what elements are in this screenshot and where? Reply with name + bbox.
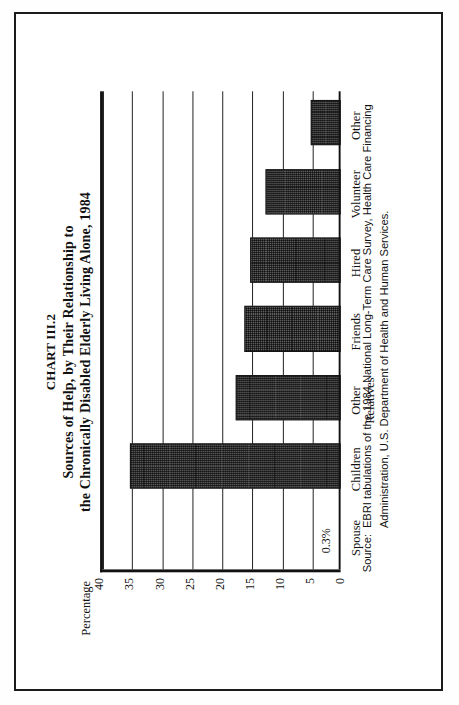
plot-area: Percentage 0510152025303540 SpouseChildr… <box>100 91 341 572</box>
scanned-page: CHART III.2 Sources of Help, by Their Re… <box>0 0 459 705</box>
data-label-0: 0.3% <box>319 528 333 553</box>
source-text: EBRI tabulations of the 1984 National Lo… <box>359 72 391 528</box>
source-note: Source: EBRI tabulations of the 1984 Nat… <box>359 72 391 572</box>
y-tick-label-25: 25 <box>183 578 197 605</box>
gridline-35 <box>132 91 133 569</box>
bar-other-6 <box>310 100 340 145</box>
y-tick-label-10: 10 <box>273 578 287 605</box>
bar-other-2 <box>235 374 340 419</box>
bar-children-1 <box>130 443 340 488</box>
y-tick-label-5: 5 <box>303 578 317 605</box>
chart-number: CHART III.2 <box>42 39 59 664</box>
source-label: Source: <box>359 533 375 571</box>
y-tick-label-15: 15 <box>243 578 257 605</box>
bar-hired-4 <box>250 237 340 282</box>
bar-friends-3 <box>244 306 340 351</box>
chart-title-block: CHART III.2 Sources of Help, by Their Re… <box>42 39 95 664</box>
plot-canvas <box>100 91 341 572</box>
gridline-40 <box>102 91 104 569</box>
category-axis-line <box>338 91 340 569</box>
y-axis-title: Percentage <box>78 580 93 635</box>
y-tick-label-0: 0 <box>333 578 347 605</box>
bar-volunteer-5 <box>265 168 340 213</box>
y-tick-label-40: 40 <box>92 578 106 605</box>
chart-title-line-2: the Chronically Disabled Elderly Living … <box>77 39 95 664</box>
y-tick-label-35: 35 <box>122 578 136 605</box>
chart-title-line-1: Sources of Help, by Their Relationship t… <box>59 39 77 664</box>
y-tick-label-20: 20 <box>213 578 227 605</box>
gridline-20 <box>222 91 223 569</box>
rotated-figure-stage: CHART III.2 Sources of Help, by Their Re… <box>36 39 421 664</box>
page-frame-border: CHART III.2 Sources of Help, by Their Re… <box>14 12 443 691</box>
y-tick-label-30: 30 <box>153 578 167 605</box>
gridline-25 <box>192 91 193 569</box>
gridline-30 <box>162 91 163 569</box>
